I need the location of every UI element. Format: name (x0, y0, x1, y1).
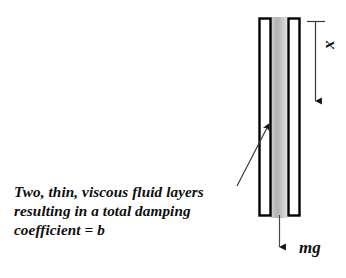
figure-canvas: Two, thin, viscous fluid layers resultin… (0, 0, 346, 278)
weight-label: mg (299, 238, 321, 258)
fluid-column (271, 17, 288, 218)
displacement-label: x (319, 41, 339, 50)
left-plate (260, 19, 271, 216)
caption-line-1: Two, thin, viscous fluid layers (14, 182, 254, 201)
displacement-arrow (307, 22, 325, 102)
right-plate (289, 19, 300, 216)
caption-line-3: coefficient = b (14, 220, 254, 239)
caption-line-2: resulting in a total damping (14, 201, 254, 220)
caption-text: Two, thin, viscous fluid layers resultin… (14, 182, 254, 239)
